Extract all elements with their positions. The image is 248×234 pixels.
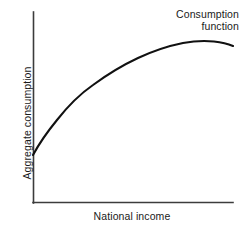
x-axis-title-text: National income [94,210,171,222]
series-group [33,41,233,155]
series-annotation-label: Consumption function [176,8,239,32]
series-annotation-line-1: Consumption [176,8,239,20]
y-axis-title: Aggregate consumption [21,53,33,193]
y-axis-title-text: Aggregate consumption [21,67,33,180]
consumption-function-figure: Consumption function National income Agg… [0,0,248,234]
series-annotation-line-2: function [176,20,239,32]
consumption-function-curve [33,41,233,155]
x-axis-title: National income [0,210,248,222]
chart-canvas [0,0,248,234]
